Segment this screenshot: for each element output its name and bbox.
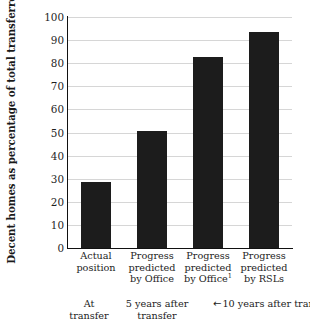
period-annotation-line: 5 years after — [118, 298, 196, 310]
y-axis-tick-label: 30 — [24, 173, 64, 183]
period-annotation-line: transfer — [58, 310, 120, 322]
category-label: Progresspredictedby Office — [121, 250, 183, 285]
category-label-line: position — [65, 262, 127, 274]
y-axis-tick-label: 20 — [24, 197, 64, 207]
bar-series — [68, 17, 292, 248]
category-label-line: predicted — [121, 262, 183, 274]
y-axis-tick-label: 50 — [24, 127, 64, 137]
y-axis-tick-label: 40 — [24, 150, 64, 160]
y-axis-tick-label: 90 — [24, 35, 64, 45]
arrow-left-icon: ← — [213, 299, 221, 309]
y-axis-tick-label: 10 — [24, 220, 64, 230]
period-annotations: Attransfer5 years aftertransfer←10 years… — [50, 298, 310, 324]
period-annotation: 5 years aftertransfer — [118, 298, 196, 321]
category-label-line: Progress — [121, 250, 183, 262]
category-label: Progresspredictedby RSLs — [233, 250, 295, 285]
period-annotation: Attransfer — [58, 298, 120, 321]
period-annotation-line: transfer — [118, 310, 196, 322]
period-annotation-line: At — [58, 298, 120, 310]
category-label-line: Progress — [177, 250, 239, 262]
y-axis-tick-label: 0 — [24, 243, 64, 253]
category-label-line: Actual — [65, 250, 127, 262]
bar — [193, 57, 223, 248]
y-axis-tick-label: 100 — [24, 12, 64, 22]
y-axis-title-container: Decent homes as percentage of total tran… — [0, 0, 22, 252]
y-axis-tick-label: 70 — [24, 81, 64, 91]
y-axis-tick-label: 80 — [24, 58, 64, 68]
x-axis-category-labels: ActualpositionProgresspredictedby Office… — [68, 250, 292, 294]
period-annotation-line: ←10 years after transfer→ — [198, 298, 310, 310]
footnote-marker: 1 — [228, 272, 232, 280]
bar — [137, 131, 167, 248]
category-label-line: Progress — [233, 250, 295, 262]
category-label-line: by Office — [121, 273, 183, 285]
category-label-line: by RSLs — [233, 273, 295, 285]
y-axis-tick-label: 60 — [24, 104, 64, 114]
bar — [249, 32, 279, 248]
category-label-line: by Office1 — [177, 273, 239, 285]
y-axis-title: Decent homes as percentage of total tran… — [6, 0, 16, 264]
category-label-line: predicted — [233, 262, 295, 274]
category-label: Progresspredictedby Office1 — [177, 250, 239, 285]
period-annotation: ←10 years after transfer→ — [198, 298, 310, 310]
category-label: Actualposition — [65, 250, 127, 273]
period-annotation-text: 10 years after transfer — [222, 298, 310, 310]
bar — [81, 182, 111, 248]
bar-chart-figure: Decent homes as percentage of total tran… — [0, 0, 310, 324]
